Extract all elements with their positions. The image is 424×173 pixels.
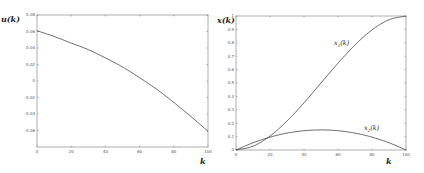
x-tick-label: 100 xyxy=(204,149,212,154)
x1-annotation: x1(k) xyxy=(334,39,350,48)
y-tick-label: 0.3 xyxy=(228,107,235,112)
y-tick-label: 0.02 xyxy=(26,62,35,67)
left-x-axis-label: k xyxy=(200,156,206,166)
y-tick-label: 0.8 xyxy=(228,40,235,45)
series-line-x2(k) xyxy=(236,130,406,150)
right-plot: 02040608010010.90.80.70.60.50.40.30.20.1… xyxy=(228,13,411,157)
x-tick-label: 20 xyxy=(267,152,273,157)
y-tick-label: 0.08 xyxy=(26,12,35,17)
plot-frame xyxy=(37,15,208,147)
left-y-axis-label: u(k) xyxy=(1,14,20,24)
y-tick-label: 0 xyxy=(32,78,35,83)
y-tick-label: -0.04 xyxy=(25,111,36,116)
x2-annotation: x2(k) xyxy=(364,124,380,133)
y-tick-label: -0.06 xyxy=(25,128,36,133)
x-tick-label: 20 xyxy=(69,149,75,154)
y-tick-label: 0.06 xyxy=(26,29,35,34)
x-tick-label: 40 xyxy=(103,149,109,154)
series-line-u(k) xyxy=(37,31,208,132)
x-tick-label: 60 xyxy=(335,152,341,157)
y-tick-label: 0.5 xyxy=(228,80,235,85)
y-tick-label: 0.7 xyxy=(228,54,235,59)
y-tick-label: 0.04 xyxy=(26,45,35,50)
right-y-axis-label: x(k) xyxy=(216,15,235,25)
left-plot: 0204060801000.080.060.040.020-0.02-0.04-… xyxy=(25,12,213,154)
x-tick-label: 100 xyxy=(402,152,410,157)
y-tick-label: 0.6 xyxy=(228,67,235,72)
x-tick-label: 0 xyxy=(36,149,39,154)
x-tick-label: 80 xyxy=(171,149,177,154)
x-tick-label: 60 xyxy=(137,149,143,154)
x-tick-label: 0 xyxy=(235,152,238,157)
y-tick-label: 0.4 xyxy=(228,94,235,99)
x-tick-label: 40 xyxy=(301,152,307,157)
y-tick-label: 0.1 xyxy=(228,134,235,139)
x-tick-label: 80 xyxy=(369,152,375,157)
y-tick-label: 0.2 xyxy=(228,121,235,126)
chart-figure: 0204060801000.080.060.040.020-0.02-0.04-… xyxy=(0,0,424,173)
y-tick-label: -0.02 xyxy=(25,95,36,100)
y-tick-label: 0.9 xyxy=(228,27,235,32)
right-x-axis-label: k xyxy=(386,156,392,166)
